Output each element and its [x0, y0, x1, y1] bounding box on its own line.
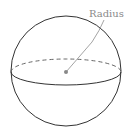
radius-label: Radius: [89, 8, 124, 19]
center-point: [64, 70, 68, 74]
sphere-diagram: Radius: [0, 0, 129, 130]
radius-leader-line: [66, 20, 104, 72]
